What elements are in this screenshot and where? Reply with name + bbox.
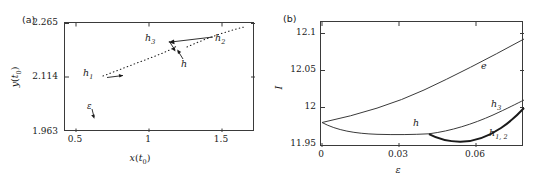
panel-a-xaxis-title: x(t0)	[130, 152, 151, 166]
panel-b-ytick-1: 12	[272, 101, 316, 111]
panel-a-label-h2: h2	[215, 32, 225, 46]
panel-a-arrow-h2	[169, 37, 214, 44]
panel-a-label-h: h	[181, 58, 187, 69]
panel-b-xtick-2: 0.06	[465, 149, 485, 159]
panel-b-label-e: e	[481, 60, 487, 71]
panel-a-label-h1: h1	[83, 67, 93, 81]
panel-b-label-h3: h3	[491, 98, 501, 112]
panel-a-xtick-2: 1.5	[214, 134, 228, 144]
panel-a-ytick-1: 2.114	[18, 71, 58, 81]
panel-b-ytick-0: 11.95	[272, 138, 316, 148]
panel-b-xtick-0: 0	[318, 149, 324, 159]
panel-b-curve-h12	[429, 108, 524, 142]
panel-a-ytick-0: 1.963	[18, 126, 58, 136]
figure-container: (a) 2.265 2.114 1.963 y(t0)	[0, 0, 544, 182]
panel-b-curve-h3	[429, 100, 524, 134]
panel-b-yaxis-title: I	[273, 73, 284, 103]
panel-b-xtick-1: 0.03	[388, 149, 408, 159]
panel-b-label-h12: h1, 2	[489, 127, 508, 141]
panel-a-plot-area: h1 h3 h h2 ε	[64, 22, 254, 131]
panel-a-xtick-0: 0.5	[68, 134, 82, 144]
panel-a: (a) 2.265 2.114 1.963 y(t0)	[0, 0, 272, 182]
panel-a-ytick-2: 2.265	[18, 17, 58, 27]
panel-a-yaxis-title: y(t0)	[9, 55, 23, 99]
panel-b-ytick-3: 12.1	[272, 27, 316, 37]
panel-b-label-h: h	[413, 117, 419, 128]
panel-b: (b) 12.1 12.05 12 11.95 I	[272, 0, 544, 182]
panel-b-xaxis-title: ε	[395, 164, 400, 175]
panel-a-yaxis-title-text: y	[9, 82, 20, 87]
panel-b-plot-area: e h h3 h1, 2	[320, 21, 523, 146]
panel-a-arrow-h1	[107, 74, 123, 78]
panel-b-tag: (b)	[283, 13, 296, 24]
panel-a-xtick-1: 1	[145, 134, 151, 144]
panel-a-series-left	[103, 46, 177, 76]
panel-a-plot-svg	[65, 23, 255, 132]
panel-a-label-h3: h3	[145, 32, 155, 46]
panel-a-label-epsilon: ε	[87, 101, 92, 111]
